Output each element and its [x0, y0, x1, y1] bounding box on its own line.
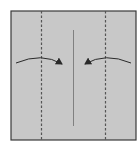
origami-diagram: [0, 0, 140, 153]
